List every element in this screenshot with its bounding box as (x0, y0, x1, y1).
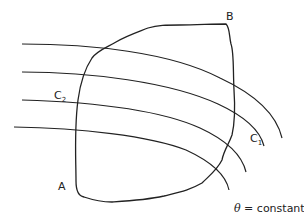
region-boundary (76, 24, 235, 202)
label-theta-constant: θ = constant (234, 202, 304, 215)
label-curve-c2: C2 (54, 89, 66, 104)
label-curve-c1: C1 (250, 132, 262, 147)
theta-curve-3 (22, 100, 246, 172)
theta-curve-4 (14, 127, 229, 190)
label-corner-b: B (226, 10, 234, 23)
diagram-canvas: A B C2 C1 θ = constant (0, 0, 304, 218)
label-corner-a: A (58, 180, 66, 193)
theta-curve-2 (22, 72, 264, 146)
